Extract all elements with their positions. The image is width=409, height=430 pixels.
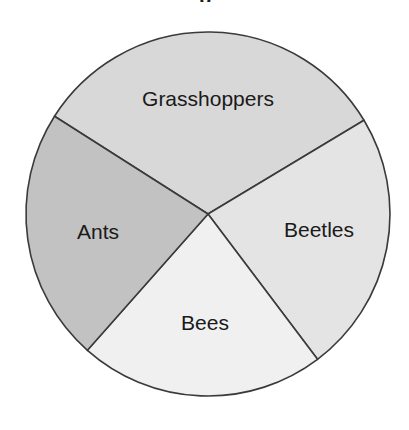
pie-slice-label-bees: Bees: [181, 311, 229, 334]
pie-chart-figure: p GrasshoppersBeetlesBeesAnts: [0, 0, 409, 430]
pie-slice-label-grasshoppers: Grasshoppers: [142, 87, 274, 110]
pie-slice-label-beetles: Beetles: [284, 218, 354, 241]
pie-slice-label-ants: Ants: [77, 220, 119, 243]
pie-chart-canvas: GrasshoppersBeetlesBeesAnts: [0, 0, 409, 430]
